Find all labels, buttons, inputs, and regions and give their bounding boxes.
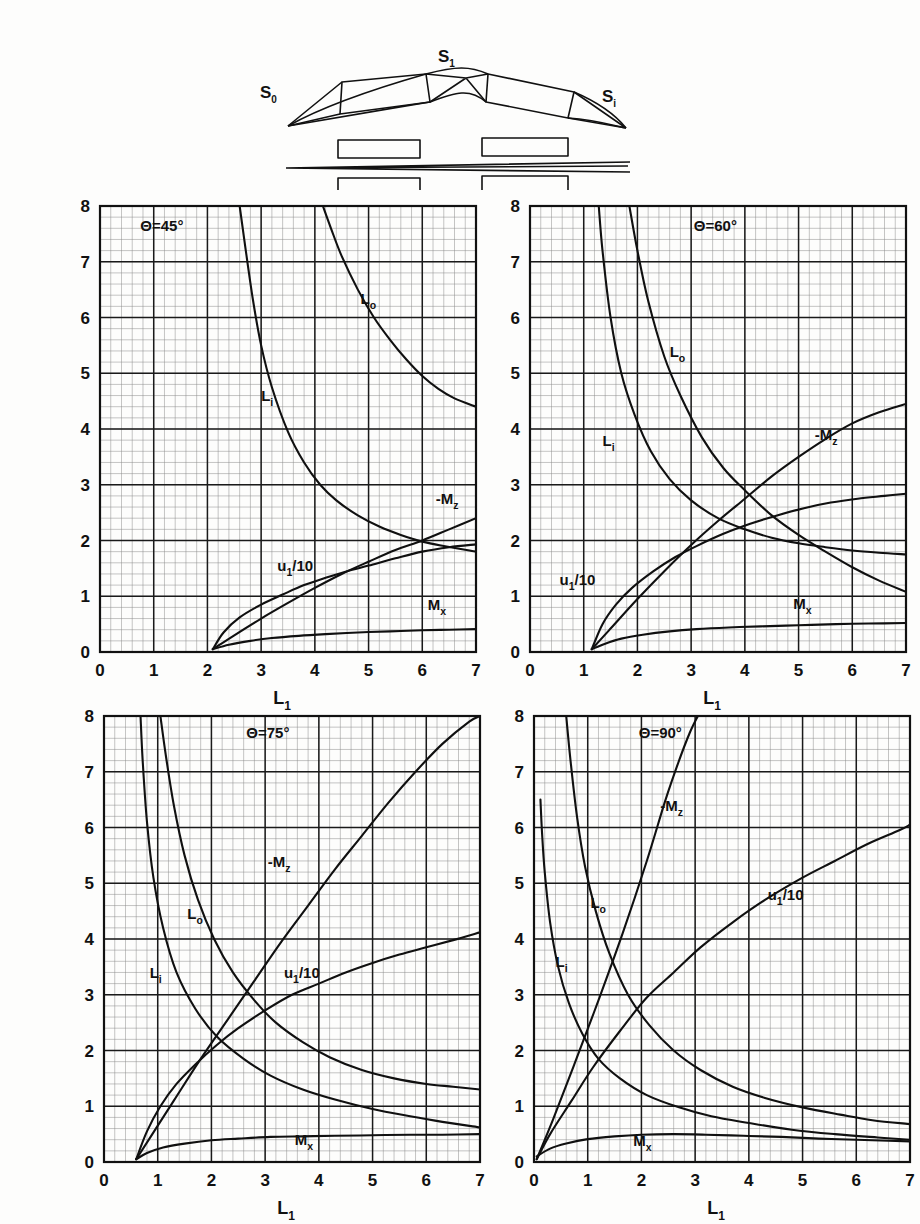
x-tick-0: 0 bbox=[99, 1171, 108, 1190]
x-tick-3: 3 bbox=[690, 1171, 699, 1190]
x-tick-6: 6 bbox=[848, 661, 857, 680]
curves-group bbox=[213, 206, 476, 649]
y-tick-3: 3 bbox=[515, 986, 524, 1005]
curve-mx bbox=[537, 1134, 910, 1156]
x-tick-1: 1 bbox=[583, 1171, 592, 1190]
y-tick-7: 7 bbox=[511, 253, 520, 272]
y-tick-0: 0 bbox=[81, 643, 90, 662]
y-tick-7: 7 bbox=[515, 763, 524, 782]
curve-label-li: Li bbox=[261, 387, 273, 408]
y-tick-3: 3 bbox=[85, 986, 94, 1005]
theta-label: Θ=45° bbox=[140, 217, 183, 234]
x-tick-4: 4 bbox=[310, 661, 320, 680]
curves-group bbox=[537, 716, 910, 1159]
chart-panel-theta-75: 01234567012345678L1Θ=75°LoLi-Mzu1/10Mx bbox=[68, 706, 504, 1224]
y-tick-5: 5 bbox=[515, 874, 524, 893]
schematic-svg: S0 S1 Si bbox=[230, 40, 650, 190]
x-tick-7: 7 bbox=[475, 1171, 484, 1190]
y-tick-8: 8 bbox=[81, 197, 90, 216]
x-tick-6: 6 bbox=[422, 1171, 431, 1190]
y-tick-6: 6 bbox=[515, 819, 524, 838]
stator-box-lower-left bbox=[338, 178, 420, 190]
curve-label-u1: u1/10 bbox=[768, 886, 804, 907]
x-axis-title: L1 bbox=[277, 1198, 295, 1223]
curve-label-mx: Mx bbox=[633, 1132, 652, 1153]
curve-label-u1: u1/10 bbox=[284, 964, 320, 985]
y-tick-7: 7 bbox=[81, 253, 90, 272]
curve-label-li: Li bbox=[555, 953, 567, 974]
curve-u1 bbox=[537, 825, 910, 1159]
x-tick-1: 1 bbox=[149, 661, 158, 680]
x-axis-title: L1 bbox=[707, 1198, 725, 1223]
y-tick-2: 2 bbox=[511, 532, 520, 551]
x-tick-6: 6 bbox=[852, 1171, 861, 1190]
x-tick-0: 0 bbox=[95, 661, 104, 680]
stator-box-upper-left bbox=[338, 140, 420, 158]
x-tick-1: 1 bbox=[153, 1171, 162, 1190]
x-tick-2: 2 bbox=[637, 1171, 646, 1190]
y-tick-4: 4 bbox=[85, 930, 95, 949]
y-tick-8: 8 bbox=[515, 707, 524, 726]
y-tick-3: 3 bbox=[81, 476, 90, 495]
y-tick-6: 6 bbox=[81, 309, 90, 328]
x-tick-7: 7 bbox=[901, 661, 910, 680]
y-tick-8: 8 bbox=[511, 197, 520, 216]
chart-svg-theta-75: 01234567012345678L1Θ=75°LoLi-Mzu1/10Mx bbox=[68, 706, 504, 1224]
thin-blade bbox=[286, 162, 630, 172]
x-tick-5: 5 bbox=[794, 661, 803, 680]
x-tick-4: 4 bbox=[740, 661, 750, 680]
y-tick-0: 0 bbox=[511, 643, 520, 662]
upper-camber-left bbox=[288, 74, 426, 126]
right-blade bbox=[486, 74, 574, 118]
y-tick-1: 1 bbox=[85, 1097, 94, 1116]
theta-label: Θ=75° bbox=[246, 724, 289, 741]
theta-label: Θ=60° bbox=[694, 217, 737, 234]
y-tick-6: 6 bbox=[85, 819, 94, 838]
curve-li bbox=[599, 206, 906, 554]
curve-mz bbox=[592, 404, 906, 649]
x-tick-2: 2 bbox=[203, 661, 212, 680]
lower-camber-mid bbox=[430, 93, 486, 102]
y-tick-5: 5 bbox=[85, 874, 94, 893]
stator-box-upper-right bbox=[482, 138, 568, 156]
x-tick-7: 7 bbox=[905, 1171, 914, 1190]
x-tick-1: 1 bbox=[579, 661, 588, 680]
x-tick-5: 5 bbox=[364, 661, 373, 680]
x-tick-0: 0 bbox=[525, 661, 534, 680]
curve-mx bbox=[213, 629, 476, 649]
y-tick-1: 1 bbox=[515, 1097, 524, 1116]
y-tick-5: 5 bbox=[511, 364, 520, 383]
curve-label-mx: Mx bbox=[428, 596, 447, 617]
curve-label-lo: Lo bbox=[590, 894, 606, 915]
x-tick-5: 5 bbox=[368, 1171, 377, 1190]
curve-lo bbox=[629, 206, 906, 592]
curve-label-li: Li bbox=[603, 432, 615, 453]
chart-panel-theta-60: 01234567012345678L1Θ=60°LoLi-Mzu1/10Mx bbox=[494, 196, 920, 720]
y-tick-7: 7 bbox=[85, 763, 94, 782]
x-tick-4: 4 bbox=[314, 1171, 324, 1190]
y-tick-8: 8 bbox=[85, 707, 94, 726]
curve-mx bbox=[592, 623, 906, 649]
curve-label-lo: Lo bbox=[670, 343, 686, 364]
upper-camber-mid bbox=[426, 68, 488, 74]
y-tick-3: 3 bbox=[511, 476, 520, 495]
left-blade bbox=[340, 74, 430, 114]
curve-label-u1: u1/10 bbox=[560, 571, 596, 592]
y-tick-4: 4 bbox=[515, 930, 525, 949]
lower-camber-left bbox=[288, 102, 430, 126]
schematic-label-si: Si bbox=[602, 87, 616, 109]
y-tick-4: 4 bbox=[81, 420, 91, 439]
curve-label-li: Li bbox=[150, 964, 162, 985]
chart-svg-theta-90: 01234567012345678L1Θ=90°LoLi-Mzu1/10Mx bbox=[498, 706, 920, 1224]
schematic-label-s1: S1 bbox=[438, 47, 455, 69]
figure-page: S0 S1 Si 01234567012345678L1Θ=45°LoLi-Mz… bbox=[0, 0, 920, 1224]
y-tick-1: 1 bbox=[511, 587, 520, 606]
x-tick-3: 3 bbox=[686, 661, 695, 680]
curve-label-mz: -Mz bbox=[268, 853, 291, 874]
s1-crossing bbox=[426, 74, 488, 102]
y-tick-1: 1 bbox=[81, 587, 90, 606]
y-tick-5: 5 bbox=[81, 364, 90, 383]
theta-label: Θ=90° bbox=[639, 724, 682, 741]
chart-panel-theta-45: 01234567012345678L1Θ=45°LoLi-Mzu1/10Mx bbox=[64, 196, 500, 720]
y-tick-0: 0 bbox=[85, 1153, 94, 1172]
